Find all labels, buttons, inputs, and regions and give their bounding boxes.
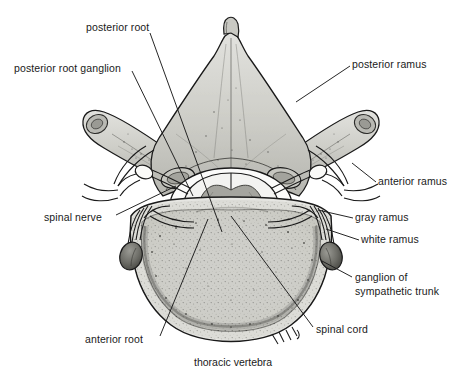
label-white-ramus: white ramus bbox=[361, 233, 419, 247]
vertebral-body bbox=[128, 196, 336, 348]
label-spinal-nerve: spinal nerve bbox=[44, 211, 102, 225]
label-gray-ramus: gray ramus bbox=[355, 211, 409, 225]
leader-anterior-ramus bbox=[352, 163, 376, 182]
figure-canvas: posterior root posterior root ganglion p… bbox=[0, 0, 462, 376]
label-posterior-root-ganglion: posterior root ganglion bbox=[14, 62, 121, 76]
label-spinal-cord: spinal cord bbox=[316, 323, 368, 337]
label-ganglion-of-sympathetic-trunk: ganglion of sympathetic trunk bbox=[355, 271, 450, 298]
vertebra-bone-outline bbox=[82, 17, 380, 348]
leader-posterior-ramus bbox=[296, 66, 350, 102]
label-posterior-root: posterior root bbox=[86, 21, 149, 35]
label-anterior-root: anterior root bbox=[85, 333, 143, 347]
label-anterior-ramus: anterior ramus bbox=[378, 175, 447, 189]
label-posterior-ramus: posterior ramus bbox=[352, 58, 427, 72]
figure-caption: thoracic vertebra bbox=[194, 356, 272, 368]
